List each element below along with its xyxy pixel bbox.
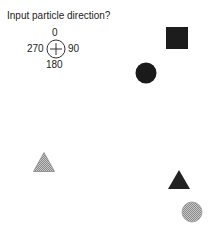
black-square[interactable] xyxy=(166,27,188,49)
direction-dial[interactable] xyxy=(46,39,66,59)
dial-label-90: 90 xyxy=(68,44,79,54)
hatched-triangle[interactable] xyxy=(33,152,55,172)
dial-label-180: 180 xyxy=(46,60,63,70)
black-triangle[interactable] xyxy=(168,170,190,189)
dial-label-0: 0 xyxy=(52,28,58,38)
black-circle[interactable] xyxy=(135,62,157,84)
hatched-circle[interactable] xyxy=(181,201,203,223)
crosshair-circle-icon xyxy=(46,39,66,59)
direction-prompt: Input particle direction? xyxy=(7,10,110,21)
dial-label-270: 270 xyxy=(27,44,44,54)
